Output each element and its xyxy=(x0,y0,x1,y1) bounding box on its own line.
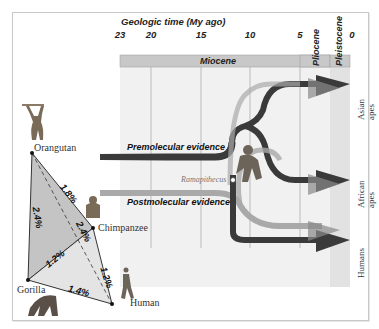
orangutan-figure xyxy=(22,104,44,140)
tick-15: 15 xyxy=(196,29,207,40)
tick-20: 20 xyxy=(146,29,157,40)
label-chimpanzee: Chimpanzee xyxy=(98,222,148,233)
tick-0: 0 xyxy=(349,29,354,40)
ramapithecus-label: Ramapithecus xyxy=(181,175,226,184)
outcome-humans: Humans xyxy=(356,248,366,278)
premolecular-evidence-label: Premolecular evidence xyxy=(127,142,225,152)
label-gorilla: Gorilla xyxy=(17,284,45,295)
gorilla-figure xyxy=(28,295,58,316)
chimpanzee-figure xyxy=(86,196,100,218)
tick-5: 5 xyxy=(297,29,302,40)
postmolecular-evidence-label: Postmolecular evidence xyxy=(127,197,230,207)
diagram-graphics xyxy=(0,0,379,329)
outcome-asian-apes: Asian apes xyxy=(356,97,376,120)
axis-title: Geologic time (My ago) xyxy=(121,16,226,27)
tick-23: 23 xyxy=(115,29,126,40)
epoch-pliocene: Pliocene xyxy=(311,29,321,66)
label-human: Human xyxy=(130,297,159,308)
tick-10: 10 xyxy=(245,29,256,40)
epoch-miocene: Miocene xyxy=(200,56,236,66)
label-orangutan: Orangutan xyxy=(34,142,76,153)
epoch-pleistocene: Pleistocene xyxy=(334,16,344,66)
ramapithecus-node xyxy=(231,178,236,183)
outcome-african-apes: African apes xyxy=(356,181,376,208)
